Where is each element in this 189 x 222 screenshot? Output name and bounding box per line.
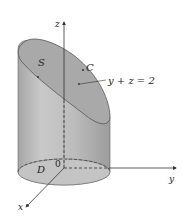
origin-label: 0 [55,159,61,169]
x-axis-label: x [18,202,23,212]
surface-s-label: S [38,57,45,68]
cylinder-diagram: z y x 0 S C y + z = 2 D [0,0,189,222]
curve-c-label: C [86,62,94,73]
plane-equation-label: y + z = 2 [107,75,155,86]
curve-point [82,69,84,71]
curve-point [37,76,39,78]
y-axis-label: y [168,174,175,184]
plane-leader-dot [78,83,80,85]
region-d-label: D [36,164,45,175]
z-axis-label: z [54,19,60,29]
